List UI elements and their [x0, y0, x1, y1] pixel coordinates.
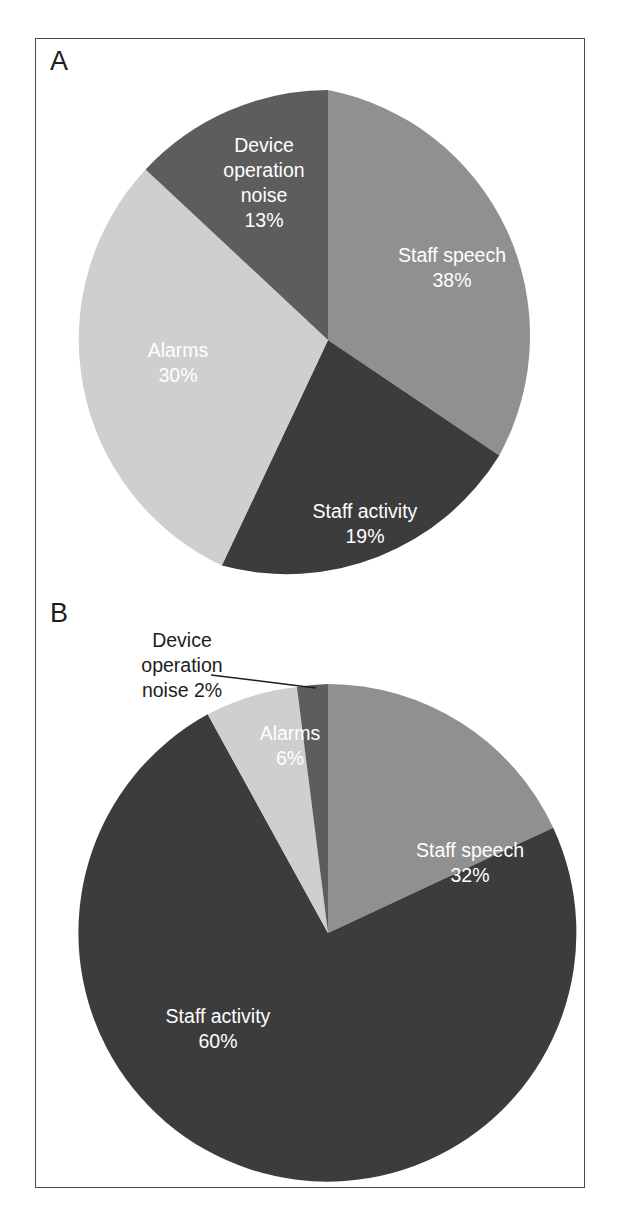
figure-frame	[35, 38, 585, 1188]
panel-b-letter: B	[50, 600, 69, 627]
panel-a-letter: A	[50, 48, 69, 75]
